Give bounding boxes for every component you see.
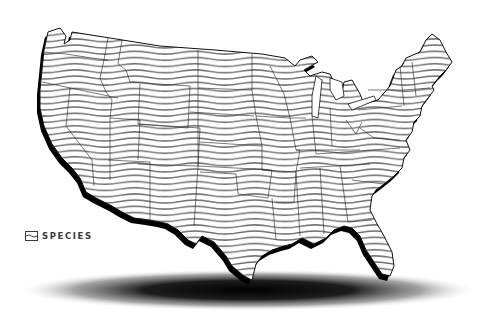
species-logo: SPECIES bbox=[25, 231, 93, 241]
us-map-canvas bbox=[0, 0, 483, 325]
species-logo-label: SPECIES bbox=[42, 231, 93, 241]
species-logo-icon bbox=[25, 231, 38, 241]
